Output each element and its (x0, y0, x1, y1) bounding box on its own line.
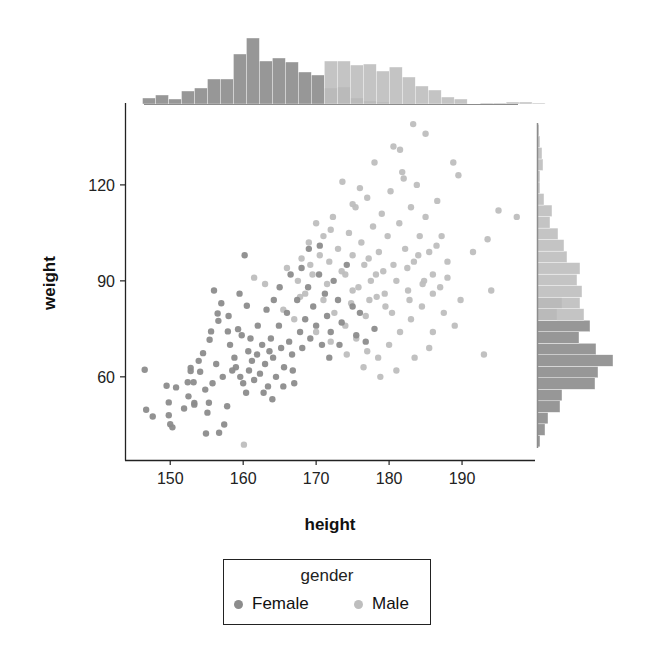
top-hist-bar-female (285, 62, 298, 104)
x-tick-label: 150 (157, 470, 184, 487)
scatter-point-female (214, 310, 220, 316)
right-hist-bar-male (537, 217, 550, 229)
scatter-point-male (326, 258, 332, 264)
scatter-point-female (326, 354, 332, 360)
legend-marker-male (354, 600, 363, 609)
scatter-point-male (313, 220, 319, 226)
legend-item-male: Male (354, 594, 409, 614)
top-hist-bar-male (376, 71, 389, 104)
right-marginal-histogram (537, 123, 613, 448)
x-tick-label: 160 (230, 470, 257, 487)
scatter-point-female (305, 284, 311, 290)
legend-label-female: Female (252, 594, 309, 614)
scatter-point-female (284, 310, 290, 316)
scatter-point-female (322, 290, 328, 296)
scatter-point-female (316, 271, 322, 277)
scatter-point-male (387, 188, 393, 194)
scatter-point-male (357, 185, 363, 191)
scatter-point-female (206, 337, 212, 343)
top-hist-bar-male (402, 77, 415, 104)
scatter-point-male (444, 258, 450, 264)
scatter-point-female (371, 326, 377, 332)
scatter-point-male (433, 242, 439, 248)
scatter-point-male (450, 159, 456, 165)
scatter-point-male (495, 207, 501, 213)
scatter-point-female (249, 358, 255, 364)
scatter-point-male (481, 351, 487, 357)
scatter-point-male (404, 265, 410, 271)
scatter-point-male (396, 220, 402, 226)
scatter-point-female (265, 383, 271, 389)
y-tick-label: 90 (97, 273, 115, 290)
scatter-point-female (203, 430, 209, 436)
scatter-point-female (319, 342, 325, 348)
scatter-point-male (328, 226, 334, 232)
scatter-point-female (294, 297, 300, 303)
top-hist-bar-male (350, 65, 363, 104)
scatter-point-female (328, 329, 334, 335)
scatter-point-female (271, 297, 277, 303)
scatter-point-female (317, 242, 323, 248)
top-hist-bar-male (493, 103, 506, 104)
scatter-point-female (259, 342, 265, 348)
right-hist-bar-female (537, 332, 579, 344)
scatter-point-female (235, 326, 241, 332)
scatter-point-male (438, 233, 444, 239)
scatter-point-male (470, 249, 476, 255)
scatter-point-male (422, 131, 428, 137)
top-hist-bar-male (324, 61, 337, 104)
scatter-point-male (484, 236, 490, 242)
y-axis-ticks: 6090120 (88, 177, 125, 386)
scatter-point-male (291, 316, 297, 322)
scatter-point-male (386, 342, 392, 348)
scatter-point-female (324, 313, 330, 319)
legend-label-male: Male (372, 594, 409, 614)
scatter-point-female (243, 390, 249, 396)
scatter-point-male (320, 297, 326, 303)
top-hist-bar-male (428, 90, 441, 104)
scatter-point-female (281, 364, 287, 370)
scatter-point-male (384, 233, 390, 239)
right-hist-bar-male (537, 297, 580, 309)
top-hist-bar-male (337, 61, 350, 104)
scatter-point-male (309, 271, 315, 277)
scatter-point-female (169, 424, 175, 430)
scatter-point-female (260, 390, 266, 396)
scatter-point-female (307, 335, 313, 341)
scatter-point-male (405, 287, 411, 293)
right-hist-bar-male (537, 286, 582, 298)
scatter-point-male (400, 175, 406, 181)
scatter-point-male (373, 271, 379, 277)
scatter-point-male (317, 252, 323, 258)
scatter-point-female (254, 351, 260, 357)
scatter-point-male (419, 303, 425, 309)
scatter-point-female (313, 322, 319, 328)
right-hist-bar-female (537, 355, 613, 367)
scatter-point-female (209, 380, 215, 386)
top-hist-bar-female (246, 38, 259, 104)
scatter-point-male (390, 262, 396, 268)
scatter-point-female (270, 354, 276, 360)
scatter-point-male (457, 297, 463, 303)
scatter-point-male (339, 178, 345, 184)
scatter-point-male (393, 278, 399, 284)
scatter-point-male (430, 290, 436, 296)
top-hist-bar-male (532, 103, 545, 104)
top-hist-bar-female (298, 72, 311, 104)
scatter-point-female (240, 380, 246, 386)
scatter-point-male (361, 262, 367, 268)
scatter-point-female (181, 405, 187, 411)
legend-title: gender (224, 566, 430, 586)
scatter-point-female (290, 367, 296, 373)
scatter-point-male (368, 278, 374, 284)
scatter-point-male (331, 310, 337, 316)
top-hist-bar-female (143, 98, 156, 104)
y-tick-label: 60 (97, 369, 115, 386)
scatter-point-male (363, 313, 369, 319)
scatter-point-male (452, 322, 458, 328)
scatter-point-male (417, 233, 423, 239)
scatter-point-male (324, 281, 330, 287)
scatter-point-female (336, 342, 342, 348)
scatter-point-male (364, 348, 370, 354)
scatter-point-male (365, 255, 371, 261)
